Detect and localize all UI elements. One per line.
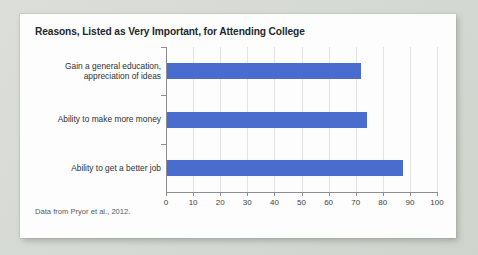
x-tick-10 bbox=[193, 192, 194, 196]
gridline-100 bbox=[437, 47, 438, 192]
bar bbox=[167, 112, 367, 128]
x-tick-30 bbox=[247, 192, 248, 196]
x-tick-40 bbox=[274, 192, 275, 196]
x-tick-50 bbox=[302, 192, 303, 196]
category-label-line: Ability to make more money bbox=[23, 114, 161, 125]
gridline-90 bbox=[410, 47, 411, 192]
source-note: Data from Pryor et al., 2012. bbox=[35, 207, 130, 216]
x-tick-label-100: 100 bbox=[430, 198, 443, 207]
bar bbox=[167, 160, 403, 176]
x-tick-label-20: 20 bbox=[216, 198, 225, 207]
figure-root: Reasons, Listed as Very Important, for A… bbox=[0, 0, 478, 255]
x-tick-label-10: 10 bbox=[189, 198, 198, 207]
x-tick-70 bbox=[356, 192, 357, 196]
x-tick-100 bbox=[437, 192, 438, 196]
x-tick-90 bbox=[410, 192, 411, 196]
x-tick-80 bbox=[383, 192, 384, 196]
x-tick-label-0: 0 bbox=[164, 198, 168, 207]
category-label-line: appreciation of ideas bbox=[23, 71, 161, 82]
y-axis-top-cap bbox=[161, 47, 166, 48]
x-tick-label-40: 40 bbox=[270, 198, 279, 207]
y-tick bbox=[161, 95, 166, 96]
x-tick-label-80: 80 bbox=[378, 198, 387, 207]
y-tick bbox=[161, 144, 166, 145]
x-tick-0 bbox=[166, 192, 167, 196]
x-tick-label-70: 70 bbox=[351, 198, 360, 207]
category-label: Gain a general education,appreciation of… bbox=[23, 61, 161, 82]
category-label-line: Gain a general education, bbox=[23, 61, 161, 72]
x-tick-label-50: 50 bbox=[297, 198, 306, 207]
category-label: Ability to get a better job bbox=[23, 163, 161, 174]
x-tick-60 bbox=[329, 192, 330, 196]
x-tick-label-90: 90 bbox=[405, 198, 414, 207]
category-label: Ability to make more money bbox=[23, 114, 161, 125]
chart-card: Reasons, Listed as Very Important, for A… bbox=[20, 14, 456, 238]
x-tick-label-30: 30 bbox=[243, 198, 252, 207]
x-tick-20 bbox=[220, 192, 221, 196]
bar bbox=[167, 63, 361, 79]
category-label-line: Ability to get a better job bbox=[23, 163, 161, 174]
x-tick-label-60: 60 bbox=[324, 198, 333, 207]
category-labels: Gain a general education,appreciation of… bbox=[20, 14, 161, 238]
